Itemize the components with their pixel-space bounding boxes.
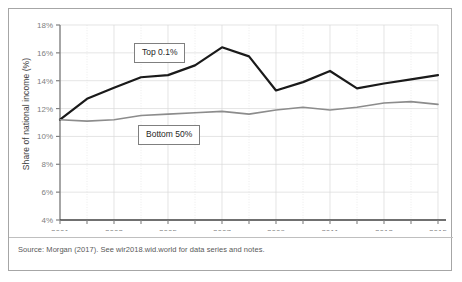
x-axis-tick-label: 2015 bbox=[429, 228, 447, 231]
y-axis-tick-label: 10% bbox=[37, 132, 53, 141]
y-axis-tick-label: 12% bbox=[37, 105, 53, 114]
y-axis-title: Share of national income (%) bbox=[21, 29, 31, 199]
x-axis-tick-label: 2007 bbox=[213, 228, 231, 231]
x-axis-tick-label: 2001 bbox=[51, 228, 69, 231]
callout-top-0-1-percent: Top 0.1% bbox=[134, 43, 185, 63]
x-axis-tick-label: 2011 bbox=[321, 228, 339, 231]
y-axis-tick-label: 6% bbox=[41, 188, 53, 197]
source-note: Source: Morgan (2017). See wir2018.wid.w… bbox=[18, 245, 265, 254]
chart-plot-area: 4%6%8%10%12%14%16%18%2001200320052007200… bbox=[9, 9, 453, 231]
chart-svg: 4%6%8%10%12%14%16%18%2001200320052007200… bbox=[9, 9, 453, 231]
x-axis-tick-label: 2013 bbox=[375, 228, 393, 231]
x-axis-tick-label: 2009 bbox=[267, 228, 285, 231]
y-axis-tick-label: 4% bbox=[41, 216, 53, 225]
y-axis-tick-label: 14% bbox=[37, 77, 53, 86]
source-divider bbox=[9, 237, 453, 238]
x-axis-tick-label: 2005 bbox=[159, 228, 177, 231]
x-axis-tick-label: 2003 bbox=[105, 228, 123, 231]
figure-frame: 4%6%8%10%12%14%16%18%2001200320052007200… bbox=[8, 8, 452, 271]
y-axis-tick-label: 18% bbox=[37, 21, 53, 30]
callout-bottom-50-percent: Bottom 50% bbox=[138, 125, 200, 145]
y-axis-tick-label: 16% bbox=[37, 49, 53, 58]
y-axis-tick-label: 8% bbox=[41, 160, 53, 169]
